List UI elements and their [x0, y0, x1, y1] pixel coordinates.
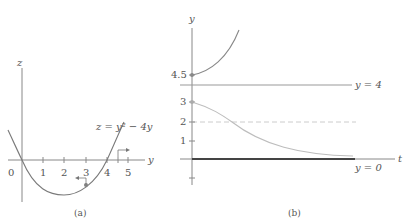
tick-label-4: 4 [104, 167, 110, 178]
y-axis-label: y [147, 154, 154, 165]
curve-equation-label: z = y² − 4y [95, 121, 153, 132]
figure: z y 0 1 2 3 4 5 z = y² − 4y (a) [0, 0, 405, 224]
y0-label: y = 0 [354, 162, 382, 173]
y4-label: y = 4 [354, 79, 382, 90]
panel-b: y t 4.5 3 2 1 y = 4 y = 0 (b) [171, 13, 403, 218]
growth-curve [192, 30, 239, 75]
t-axis-label: t [398, 153, 403, 164]
caption-a: (a) [74, 208, 86, 218]
tick-label-3: 3 [180, 96, 186, 107]
decay-curve [192, 102, 353, 156]
caption-b: (b) [288, 208, 301, 218]
tick-label-2: 2 [180, 116, 186, 127]
tick-label-4-5: 4.5 [171, 69, 187, 80]
left-arrow-head [75, 176, 79, 180]
tick-label-1: 1 [180, 135, 186, 146]
b-y-axis-label: y [188, 13, 195, 24]
origin-label: 0 [8, 167, 14, 178]
right-arrow-head [126, 148, 130, 152]
tick-label-1: 1 [40, 167, 46, 178]
z-axis-label: z [16, 57, 23, 68]
tick-label-2: 2 [61, 167, 67, 178]
tick-label-3: 3 [83, 167, 89, 178]
panel-a: z y 0 1 2 3 4 5 z = y² − 4y (a) [8, 57, 154, 218]
point-4-5 [190, 73, 194, 77]
tick-label-5: 5 [125, 167, 131, 178]
point-3 [190, 100, 194, 104]
